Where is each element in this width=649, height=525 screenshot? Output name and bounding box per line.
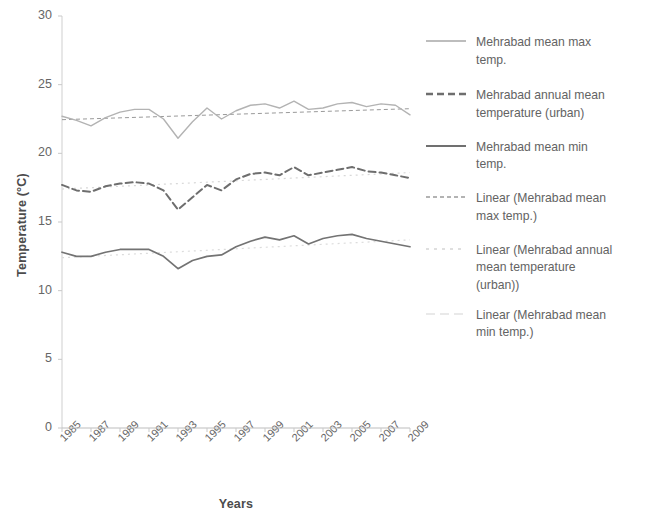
trendline (62, 173, 410, 189)
legend-item[interactable]: Mehrabad annual mean temperature (urban) (424, 87, 646, 122)
data-series-line (62, 234, 410, 268)
legend-line-icon (424, 307, 468, 321)
legend-line-icon (424, 190, 468, 204)
legend-item[interactable]: Mehrabad mean max temp. (424, 34, 646, 69)
legend-item-label: Mehrabad mean max temp. (476, 34, 591, 69)
data-series-line (62, 167, 410, 210)
legend-item-label: Mehrabad mean min temp. (476, 139, 588, 174)
legend-item[interactable]: Linear (Mehrabad mean max temp.) (424, 190, 646, 225)
legend-line-icon (424, 34, 468, 48)
legend-item-label: Linear (Mehrabad annual mean temperature… (476, 242, 612, 295)
legend-item-label: Mehrabad annual mean temperature (urban) (476, 87, 605, 122)
legend-line-icon (424, 139, 468, 153)
trendline (62, 240, 410, 258)
legend-line-icon (424, 242, 468, 256)
legend-item-label: Linear (Mehrabad mean min temp.) (476, 307, 606, 342)
chart-container: Temperature (°C) Years 302520151050 1985… (0, 0, 649, 525)
data-series-line (62, 101, 410, 138)
chart-legend: Mehrabad mean max temp.Mehrabad annual m… (424, 34, 646, 342)
legend-line-icon (424, 87, 468, 101)
legend-item[interactable]: Mehrabad mean min temp. (424, 139, 646, 174)
legend-item-label: Linear (Mehrabad mean max temp.) (476, 190, 606, 225)
legend-item[interactable]: Linear (Mehrabad annual mean temperature… (424, 242, 646, 295)
legend-item[interactable]: Linear (Mehrabad mean min temp.) (424, 307, 646, 342)
